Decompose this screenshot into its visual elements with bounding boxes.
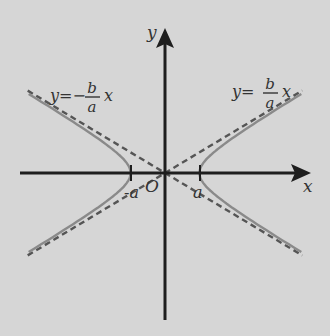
- vertex-label-left: -a: [124, 183, 139, 202]
- fraction-denominator: a: [88, 98, 97, 116]
- equation-lhs: y=−: [49, 86, 86, 105]
- fraction-numerator: b: [87, 79, 97, 97]
- y-axis-label: y: [146, 22, 157, 42]
- hyperbola-diagram: x y O -a a y=− b a x y= b a x: [0, 0, 330, 336]
- equation-variable: x: [282, 82, 291, 101]
- fraction-numerator: b: [265, 75, 275, 93]
- equation-variable: x: [104, 86, 113, 105]
- x-axis-label: x: [303, 176, 313, 196]
- asymptote-negative-equation: y=− b a x: [49, 79, 113, 116]
- vertex-label-right: a: [193, 183, 203, 202]
- fraction-denominator: a: [266, 94, 275, 112]
- equation-lhs: y=: [231, 82, 254, 101]
- origin-label: O: [145, 176, 159, 196]
